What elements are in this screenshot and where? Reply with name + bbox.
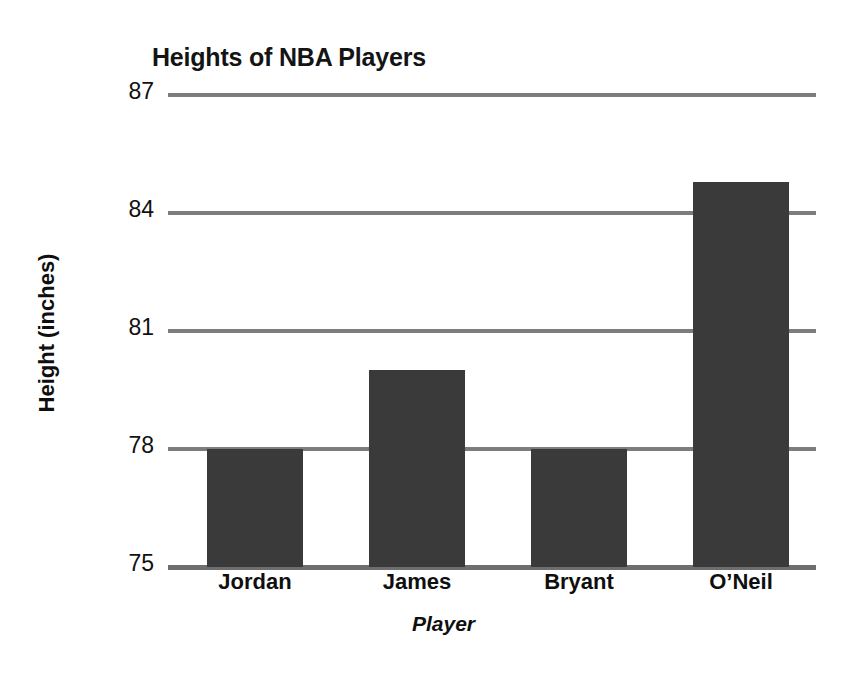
x-axis-tick-label: Bryant [544, 570, 614, 594]
bar [693, 182, 789, 567]
bar [531, 449, 627, 567]
y-axis-tick-label: 78 [128, 434, 154, 457]
y-axis-tick-label: 81 [128, 316, 154, 339]
x-axis-tick-label: James [383, 570, 452, 594]
y-axis-tick-label: 75 [128, 552, 154, 575]
bar [369, 370, 465, 567]
bar-chart: Heights of NBA Players Height (inches) 8… [0, 0, 847, 689]
y-axis-tick-label: 84 [128, 198, 154, 221]
chart-title: Heights of NBA Players [152, 43, 426, 72]
x-axis-title-text: Player [412, 612, 475, 636]
bar [207, 449, 303, 567]
x-axis-tick-label: O’Neil [709, 570, 773, 594]
x-axis-tick-labels: JordanJamesBryantO’Neil [168, 570, 816, 604]
x-axis-title: Player [0, 612, 847, 636]
x-axis-tick-label: Jordan [218, 570, 291, 594]
plot-area: 8784817875 [168, 95, 816, 567]
y-axis-title: Height (inches) [34, 223, 60, 443]
y-axis-tick-label: 87 [128, 80, 154, 103]
bars-layer [168, 95, 816, 567]
